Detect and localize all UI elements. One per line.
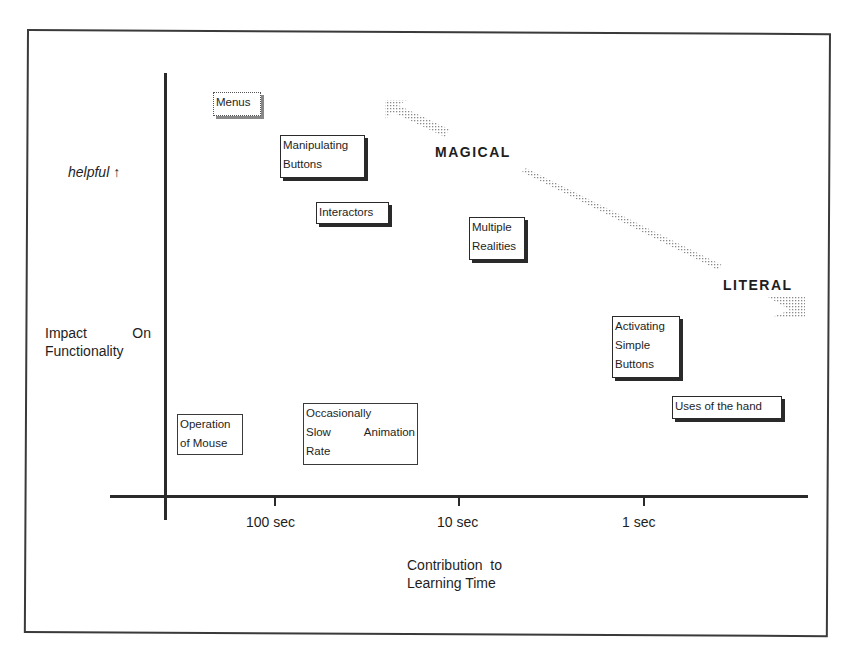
y-axis-label-impact: Impact (45, 324, 87, 342)
x-tick-100 (274, 496, 276, 506)
box-operation-of-mouse: Operation of Mouse (177, 414, 243, 455)
box-occasionally-line2: Slow Animation (306, 423, 415, 442)
box-activating-line3: Buttons (615, 355, 677, 374)
box-multiple-realities: Multiple Realities (469, 217, 525, 260)
box-activating-line1: Activating (615, 317, 677, 336)
y-axis-label-line2: Functionality (45, 342, 124, 360)
box-occasionally-word-animation: Animation (364, 423, 415, 442)
box-uses-of-the-hand: Uses of the hand (672, 396, 782, 419)
x-axis-label-line1: Contribution to (407, 556, 502, 574)
box-interactors-line1: Interactors (319, 206, 373, 218)
box-activating-simple-buttons: Activating Simple Buttons (612, 316, 680, 378)
x-tick-label-1: 1 sec (622, 513, 655, 531)
x-tick-label-10: 10 sec (437, 513, 478, 531)
box-multiple-line1: Multiple (472, 218, 522, 237)
arrow-shaft-icon (522, 168, 722, 270)
x-tick-label-100: 100 sec (246, 513, 295, 531)
box-occasionally-line1: Occasionally (306, 404, 415, 423)
box-manipulating-line2: Buttons (283, 155, 362, 174)
magical-arrowhead-icon (385, 100, 449, 137)
literal-arrowhead-icon (768, 296, 805, 318)
y-axis-helpful-hint: helpful ↑ (68, 163, 120, 181)
box-uses-line1: Uses of the hand (675, 400, 762, 412)
box-occasionally-word-slow: Slow (306, 423, 331, 442)
y-axis-label-on: On (132, 324, 151, 342)
box-manipulating-line1: Manipulating (283, 136, 362, 155)
box-operation-line1: Operation (180, 415, 240, 434)
y-axis (164, 73, 167, 520)
box-interactors: Interactors (316, 202, 389, 224)
x-axis-label-line2: Learning Time (407, 574, 496, 592)
x-tick-10 (458, 496, 460, 506)
box-multiple-line2: Realities (472, 237, 522, 256)
box-menus-line1: Menus (216, 96, 251, 108)
box-activating-line2: Simple (615, 336, 677, 355)
magical-label: MAGICAL (435, 144, 511, 160)
literal-label: LITERAL (723, 277, 793, 293)
box-occasionally-slow-animation-rate: Occasionally Slow Animation Rate (303, 403, 418, 465)
box-menus: Menus (213, 92, 261, 116)
box-manipulating-buttons: Manipulating Buttons (280, 135, 365, 178)
box-occasionally-line3: Rate (306, 442, 415, 461)
box-operation-line2: of Mouse (180, 434, 240, 453)
x-tick-1 (643, 496, 645, 506)
y-axis-label-line1: Impact On (45, 324, 151, 342)
